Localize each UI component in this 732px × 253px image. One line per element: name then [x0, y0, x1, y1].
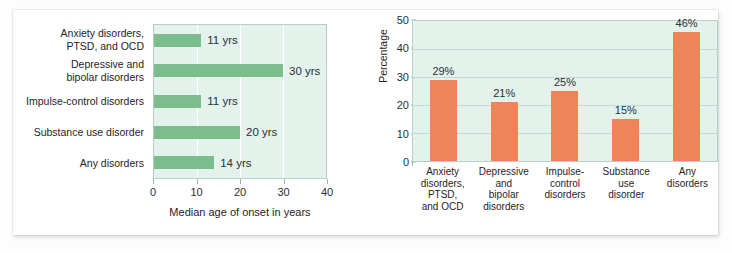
left-chart-plot-area: 11 yrs30 yrs11 yrs20 yrs14 yrs: [153, 24, 327, 179]
left-chart-category-label: Depressive andbipolar disorders: [13, 55, 149, 86]
left-chart-x-axis-ticks: 010203040: [153, 184, 327, 200]
left-chart-x-tick-mark: [284, 179, 285, 184]
right-chart-y-tick-label: 30: [397, 71, 409, 83]
right-chart-bar: 46%: [673, 32, 700, 161]
left-chart-category-label-text: Any disorders: [80, 157, 144, 170]
left-chart-bar-value-label: 14 yrs: [220, 157, 251, 169]
right-chart-category-label-text: Substanceusedisorder: [598, 166, 655, 201]
left-chart-bar-value-label: 20 yrs: [246, 126, 277, 138]
left-chart-x-axis-title: Median age of onset in years: [153, 206, 327, 218]
right-chart-y-axis-ticks: 01020304050: [375, 20, 409, 162]
right-chart-bar-column: 21%: [474, 21, 535, 161]
right-chart-plot-area: 29%21%25%15%46%: [412, 20, 718, 162]
left-chart-category-labels: Anxiety disorders,PTSD, and OCDDepressiv…: [13, 24, 149, 179]
right-chart-bar-column: 29%: [413, 21, 474, 161]
left-chart-x-tick-mark: [197, 179, 198, 184]
right-chart-bar-value-label: 21%: [493, 87, 515, 99]
right-chart-category-label-text: Impulse-controldisorders: [536, 166, 593, 201]
left-chart-x-tick-mark: [240, 179, 241, 184]
left-chart-category-label-text: Impulse-control disorders: [26, 95, 144, 108]
right-chart-category-label: Anxietydisorders,PTSD,and OCD: [412, 166, 473, 212]
left-chart-x-tick-mark: [327, 179, 328, 184]
right-chart-y-tick-label: 0: [403, 156, 409, 168]
right-chart-category-label-text: Depressiveandbipolardisorders: [475, 166, 532, 212]
right-chart-bar-value-label: 46%: [676, 17, 698, 29]
right-chart-y-tick-label: 50: [397, 14, 409, 26]
left-chart-bar-row: 30 yrs: [154, 56, 326, 87]
right-chart-category-label: Anydisorders: [657, 166, 718, 212]
left-chart-category-label: Impulse-control disorders: [13, 86, 149, 117]
left-chart-bar: 20 yrs: [154, 126, 240, 139]
left-chart-x-tick-mark: [153, 179, 154, 184]
left-chart-x-tick-label: 20: [234, 186, 246, 198]
left-chart-bar: 11 yrs: [154, 95, 201, 108]
right-chart-category-label-text: Anxietydisorders,PTSD,and OCD: [414, 166, 471, 212]
right-chart-bar-value-label: 29%: [432, 65, 454, 77]
left-chart-bar-row: 14 yrs: [154, 147, 326, 178]
right-chart-y-tick-label: 40: [397, 42, 409, 54]
left-chart-x-tick-label: 0: [150, 186, 156, 198]
right-chart-category-labels: Anxietydisorders,PTSD,and OCDDepressivea…: [412, 166, 718, 212]
right-chart-y-tick-label: 10: [397, 128, 409, 140]
right-chart-bar-column: 25%: [535, 21, 596, 161]
figure-page: Anxiety disorders,PTSD, and OCDDepressiv…: [0, 0, 732, 253]
left-chart-x-tick-label: 40: [321, 186, 333, 198]
left-chart-bar-row: 11 yrs: [154, 25, 326, 56]
right-chart-bar: 15%: [612, 119, 639, 161]
left-chart-category-label-text: Depressive andbipolar disorders: [66, 58, 144, 83]
chart-lifetime-prevalence: Percentage 01020304050 29%21%25%15%46% A…: [365, 10, 718, 235]
left-chart-bar-value-label: 11 yrs: [207, 34, 237, 46]
left-chart-bar-row: 11 yrs: [154, 86, 326, 117]
left-chart-bar: 11 yrs: [154, 34, 201, 47]
left-chart-category-label: Any disorders: [13, 148, 149, 179]
right-chart-category-label: Substanceusedisorder: [596, 166, 657, 212]
left-chart-bars: 11 yrs30 yrs11 yrs20 yrs14 yrs: [154, 25, 326, 178]
right-chart-bar-column: 15%: [595, 21, 656, 161]
right-chart-y-tick-label: 20: [397, 99, 409, 111]
right-chart-bar-column: 46%: [656, 21, 717, 161]
right-chart-category-label: Impulse-controldisorders: [534, 166, 595, 212]
left-chart-category-label-text: Substance use disorder: [34, 126, 144, 139]
left-chart-category-label-text: Anxiety disorders,PTSD, and OCD: [61, 27, 144, 52]
left-chart-bar-value-label: 30 yrs: [289, 65, 320, 77]
chart-median-age-of-onset: Anxiety disorders,PTSD, and OCDDepressiv…: [13, 10, 365, 235]
right-chart-bar: 21%: [491, 102, 518, 161]
left-chart-bar: 14 yrs: [154, 156, 214, 169]
figure-card: Anxiety disorders,PTSD, and OCDDepressiv…: [13, 10, 718, 235]
right-chart-x-tick-mark: [412, 161, 413, 166]
right-chart-category-label-text: Anydisorders: [659, 166, 716, 189]
left-chart-bar: 30 yrs: [154, 64, 283, 77]
right-chart-bar: 25%: [551, 91, 578, 161]
right-chart-category-label: Depressiveandbipolardisorders: [473, 166, 534, 212]
left-chart-bar-row: 20 yrs: [154, 117, 326, 148]
left-chart-x-tick-label: 30: [277, 186, 289, 198]
right-chart-bar: 29%: [430, 80, 457, 161]
right-chart-bar-value-label: 25%: [554, 76, 576, 88]
left-chart-category-label: Substance use disorder: [13, 117, 149, 148]
left-chart-category-label: Anxiety disorders,PTSD, and OCD: [13, 24, 149, 55]
left-chart-x-tick-label: 10: [190, 186, 202, 198]
right-chart-bar-value-label: 15%: [615, 104, 637, 116]
right-chart-bars: 29%21%25%15%46%: [413, 21, 717, 161]
left-chart-bar-value-label: 11 yrs: [207, 95, 237, 107]
